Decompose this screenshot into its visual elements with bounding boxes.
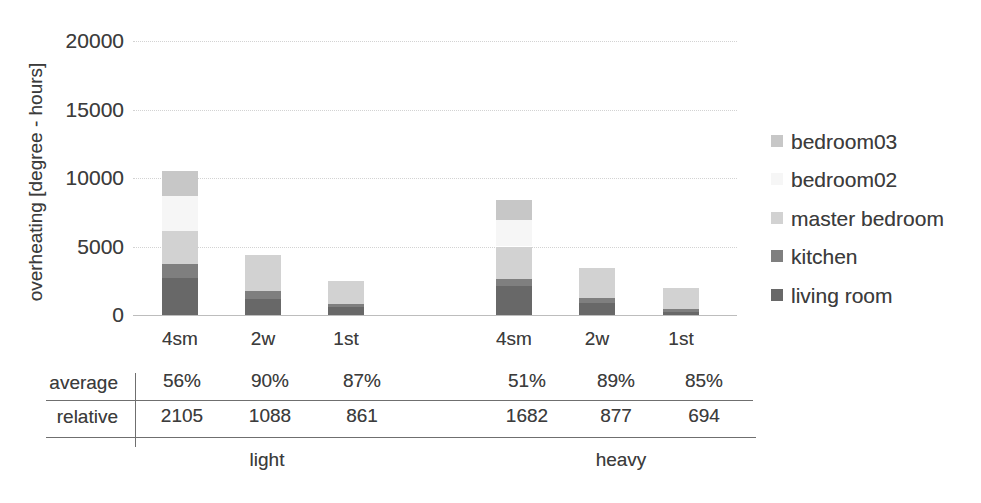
y-tick-label-10000: 10000 <box>44 166 124 190</box>
bar-segment-kitchen <box>162 264 198 278</box>
table-rule-average <box>46 400 753 401</box>
y-tick-label-20000: 20000 <box>44 29 124 53</box>
legend-label-bedroom03: bedroom03 <box>791 130 897 154</box>
x-category-label-2w-1: 2w <box>221 327 305 351</box>
table-cell-relative-1: 1088 <box>218 404 322 428</box>
bar-segment-master-bedroom <box>328 281 364 304</box>
figure-canvas: overheating [degree - hours] 05000100001… <box>0 0 981 503</box>
bar-segment-master-bedroom <box>579 268 615 298</box>
gridline-15000 <box>133 110 737 111</box>
legend-label-master-bedroom: master bedroom <box>791 207 944 231</box>
bar-segment-master-bedroom <box>496 247 532 280</box>
legend-swatch-living-room <box>771 289 783 301</box>
y-tick-label-15000: 15000 <box>44 98 124 122</box>
table-row-label-relative: relative <box>30 405 118 429</box>
gridline-5000 <box>133 247 737 248</box>
gridline-10000 <box>133 178 737 179</box>
legend-label-living-room: living room <box>791 284 893 308</box>
bar-segment-kitchen <box>663 309 699 312</box>
legend-swatch-bedroom02 <box>771 173 783 185</box>
bar-segment-living-room <box>245 299 281 315</box>
bar-segment-kitchen <box>245 291 281 299</box>
bar-segment-bedroom03 <box>162 171 198 196</box>
bar-segment-kitchen <box>496 279 532 286</box>
x-category-label-1st-5: 1st <box>639 327 723 351</box>
x-category-label-4sm-0: 4sm <box>138 327 222 351</box>
bar-segment-living-room <box>162 278 198 315</box>
x-axis-line <box>133 315 737 316</box>
table-cell-relative-2: 861 <box>310 404 414 428</box>
bar-segment-kitchen <box>579 298 615 303</box>
legend-swatch-kitchen <box>771 250 783 262</box>
legend-swatch-bedroom03 <box>771 135 783 147</box>
y-tick-label-5000: 5000 <box>44 235 124 259</box>
x-category-label-2w-4: 2w <box>555 327 639 351</box>
x-category-label-4sm-3: 4sm <box>472 327 556 351</box>
group-label-heavy: heavy <box>561 448 681 472</box>
table-row-label-average: average <box>30 371 118 395</box>
group-label-light: light <box>207 448 327 472</box>
bar-segment-master-bedroom <box>245 255 281 291</box>
table-cell-average-2: 87% <box>310 369 414 393</box>
legend-label-bedroom02: bedroom02 <box>791 168 897 192</box>
bar-segment-living-room <box>328 307 364 315</box>
bar-segment-bedroom03 <box>496 200 532 220</box>
legend-swatch-master-bedroom <box>771 212 783 224</box>
gridline-20000 <box>133 41 737 42</box>
y-tick-label-0: 0 <box>44 303 124 327</box>
table-cell-relative-5: 694 <box>652 404 756 428</box>
table-cell-average-5: 85% <box>652 369 756 393</box>
bar-segment-master-bedroom <box>162 231 198 264</box>
bar-segment-bedroom02 <box>496 220 532 247</box>
bar-segment-kitchen <box>328 304 364 308</box>
bar-segment-living-room <box>663 312 699 315</box>
bar-segment-living-room <box>579 303 615 315</box>
legend-label-kitchen: kitchen <box>791 245 858 269</box>
x-category-label-1st-2: 1st <box>304 327 388 351</box>
bar-segment-master-bedroom <box>663 288 699 309</box>
bar-segment-living-room <box>496 286 532 315</box>
bar-segment-bedroom02 <box>162 196 198 232</box>
table-rule-relative <box>46 437 756 438</box>
table-cell-average-1: 90% <box>218 369 322 393</box>
